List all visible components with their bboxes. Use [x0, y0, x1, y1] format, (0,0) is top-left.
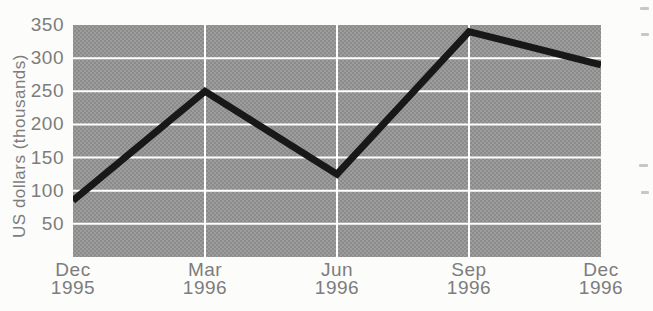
- scan-artifact: [639, 164, 648, 167]
- x-tick-label: Jun1996: [287, 261, 387, 297]
- scan-artifact: [641, 191, 649, 194]
- y-tick-label: 250: [0, 81, 64, 101]
- y-tick-label: 200: [0, 114, 64, 134]
- x-tick-label-line: 1996: [287, 279, 387, 297]
- y-tick-label: 300: [0, 48, 64, 68]
- x-tick-label: Mar1996: [155, 261, 255, 297]
- y-tick-label: 150: [0, 148, 64, 168]
- scan-artifact: [640, 7, 649, 10]
- x-tick-label-line: 1996: [155, 279, 255, 297]
- line-chart-figure: US dollars (thousands) 50100150200250300…: [0, 0, 653, 311]
- x-tick-label: Sep1996: [419, 261, 519, 297]
- plot-area: [73, 25, 601, 257]
- y-tick-label: 100: [0, 181, 64, 201]
- y-tick-label: 50: [0, 214, 64, 234]
- x-tick-label: Dec1995: [23, 261, 123, 297]
- chart-svg: [73, 25, 601, 257]
- x-tick-label: Dec1996: [551, 261, 651, 297]
- scan-artifact: [641, 33, 649, 36]
- x-tick-label-line: 1996: [419, 279, 519, 297]
- x-tick-label-line: 1995: [23, 279, 123, 297]
- x-tick-label-line: 1996: [551, 279, 651, 297]
- y-tick-label: 350: [0, 15, 64, 35]
